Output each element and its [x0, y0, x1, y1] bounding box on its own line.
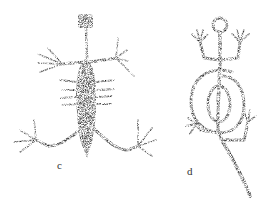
figure-label-c: c	[57, 159, 62, 171]
figure-d-spiral-figure	[186, 18, 256, 196]
figure-label-d: d	[187, 165, 193, 177]
petroglyph-illustration	[0, 0, 265, 206]
figure-c-lizard	[14, 14, 156, 158]
